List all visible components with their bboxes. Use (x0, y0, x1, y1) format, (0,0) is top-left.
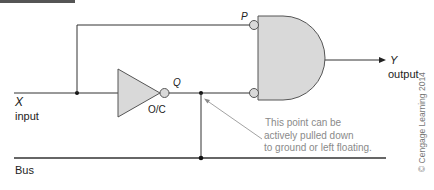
and-gate (258, 16, 325, 100)
copyright-text: © Cengage Learning 2014 (417, 72, 427, 172)
bus-label: Bus (15, 164, 34, 176)
output-caption: output (388, 68, 419, 80)
node-q-label: Q (173, 77, 181, 88)
input-symbol: X (14, 95, 24, 109)
p-wire (77, 25, 250, 93)
annotation-line-2: actively pulled down (264, 130, 354, 141)
header-bar (0, 0, 75, 3)
annotation-line-3: to ground or left floating. (264, 142, 372, 153)
annotation-pointer (206, 100, 262, 139)
input-caption: input (15, 110, 39, 122)
node-p-label: P (241, 11, 248, 22)
output-symbol: Y (390, 54, 398, 66)
annotation-line-1: This point can be (265, 117, 342, 128)
p-input-bubble (250, 21, 259, 30)
bus-junction-dot (199, 156, 204, 161)
inverter-type-label: O/C (148, 104, 166, 115)
output-arrow-icon (379, 57, 386, 63)
logic-diagram: X input P Q O/C Y output Bus This point … (0, 0, 434, 190)
inverter-bubble (160, 89, 169, 98)
annotation-arrow-icon (204, 99, 210, 104)
q-input-bubble (250, 89, 259, 98)
